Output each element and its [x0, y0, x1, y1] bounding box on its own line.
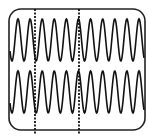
- lower-trace: [10, 71, 144, 113]
- waveform-traces: [10, 19, 144, 113]
- oscilloscope-diagram: [0, 0, 148, 136]
- upper-trace: [10, 19, 144, 61]
